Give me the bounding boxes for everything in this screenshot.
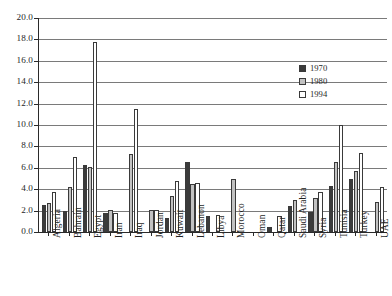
bar-egypt-1970 bbox=[83, 165, 87, 232]
bar-tunisia-1970 bbox=[329, 186, 333, 232]
x-axis-tick-label: Qatar bbox=[277, 216, 287, 238]
x-axis-tick-mark bbox=[232, 232, 233, 236]
bar-turkey-1980 bbox=[354, 171, 358, 232]
x-axis-tick-label: Tunisia bbox=[339, 209, 349, 238]
y-axis-tick-label: 0.0 bbox=[0, 226, 33, 236]
bar-algeria-1980 bbox=[47, 203, 51, 232]
x-axis-tick-label: Saudi Arabia bbox=[298, 188, 308, 239]
legend-label-1970: 1970 bbox=[310, 64, 327, 73]
bar-egypt-1980 bbox=[88, 167, 92, 232]
gridline bbox=[39, 18, 387, 19]
bar-jordan-1980 bbox=[149, 210, 153, 232]
plot-area bbox=[38, 18, 387, 233]
gridline bbox=[39, 125, 387, 126]
legend-item-1994: 1994 bbox=[299, 88, 363, 101]
bar-lebanon-1970 bbox=[185, 162, 189, 232]
bar-iran-1980 bbox=[108, 210, 112, 232]
x-axis-tick-mark bbox=[212, 232, 213, 236]
legend-label-1994: 1994 bbox=[310, 90, 327, 99]
bar-syria-1970 bbox=[308, 212, 312, 232]
x-axis-tick-label: Lebanon bbox=[196, 204, 206, 238]
bar-morocco-1980 bbox=[231, 179, 235, 233]
x-axis-tick-label: Algeria bbox=[52, 209, 62, 238]
bar-kuwait-1970 bbox=[165, 218, 169, 232]
bar-egypt-1994 bbox=[93, 42, 97, 232]
gridline bbox=[39, 104, 387, 105]
bar-iraq-1994 bbox=[134, 109, 138, 232]
bar-lebanon-1980 bbox=[190, 184, 194, 232]
y-axis-tick-label: 8.0 bbox=[0, 140, 33, 150]
bar-saudi-arabia-1970 bbox=[288, 206, 292, 232]
bar-bahrain-1970 bbox=[63, 211, 67, 232]
x-axis-tick-mark bbox=[130, 232, 131, 236]
y-axis-tick-label: 18.0 bbox=[0, 33, 33, 43]
x-axis-tick-mark bbox=[151, 232, 152, 236]
y-axis-tick-label: 16.0 bbox=[0, 55, 33, 65]
bar-iran-1970 bbox=[103, 213, 107, 232]
x-axis-tick-label: Syria bbox=[318, 217, 328, 238]
x-axis-tick-mark bbox=[355, 232, 356, 236]
y-axis-tick-label: 14.0 bbox=[0, 76, 33, 86]
x-axis-tick-label: Turkey bbox=[359, 210, 369, 238]
bar-saudi-arabia-1980 bbox=[293, 200, 297, 232]
bar-qatar-1970 bbox=[267, 227, 271, 232]
bar-syria-1980 bbox=[313, 198, 317, 232]
x-axis-tick-label: Iran bbox=[114, 222, 124, 238]
bar-tunisia-1980 bbox=[334, 162, 338, 232]
x-axis-tick-mark bbox=[253, 232, 254, 236]
x-axis-tick-label: Morocco bbox=[236, 203, 246, 238]
x-axis-tick-mark bbox=[314, 232, 315, 236]
legend-item-1980: 1980 bbox=[299, 75, 363, 88]
legend: 1970 1980 1994 bbox=[299, 62, 363, 101]
x-axis-tick-mark bbox=[171, 232, 172, 236]
legend-swatch-1994-icon bbox=[299, 91, 306, 98]
bar-chart: 0.02.04.06.08.010.012.014.016.018.020.0 … bbox=[0, 0, 392, 296]
gridline bbox=[39, 146, 387, 147]
x-axis-tick-label: Egypt bbox=[93, 215, 103, 238]
bar-libya-1970 bbox=[206, 216, 210, 232]
x-axis-tick-label: Bahrain bbox=[73, 207, 83, 238]
x-axis-tick-label: UAE bbox=[380, 218, 390, 238]
bar-algeria-1970 bbox=[42, 205, 46, 232]
x-axis-tick-label: Iraq bbox=[134, 222, 144, 238]
x-axis-tick-label: Jordan bbox=[155, 212, 165, 238]
y-axis-tick-label: 10.0 bbox=[0, 119, 33, 129]
x-axis-tick-mark bbox=[294, 232, 295, 236]
x-axis-tick-mark bbox=[69, 232, 70, 236]
x-axis-tick-mark bbox=[192, 232, 193, 236]
x-axis-tick-mark bbox=[110, 232, 111, 236]
y-axis-tick-label: 20.0 bbox=[0, 12, 33, 22]
y-axis-tick-label: 4.0 bbox=[0, 183, 33, 193]
y-axis-tick-label: 12.0 bbox=[0, 98, 33, 108]
bar-turkey-1970 bbox=[349, 179, 353, 233]
bar-iraq-1980 bbox=[129, 154, 133, 232]
bar-uae-1980 bbox=[375, 202, 379, 232]
legend-swatch-1980-icon bbox=[299, 78, 306, 85]
x-axis-tick-mark bbox=[89, 232, 90, 236]
x-axis-tick-label: Libya bbox=[216, 215, 226, 238]
legend-label-1980: 1980 bbox=[310, 77, 327, 86]
x-axis-tick-mark bbox=[48, 232, 49, 236]
bar-kuwait-1980 bbox=[170, 196, 174, 232]
gridline bbox=[39, 39, 387, 40]
x-axis-tick-mark bbox=[335, 232, 336, 236]
x-axis-tick-label: Kuwait bbox=[175, 210, 185, 239]
x-axis-tick-mark bbox=[273, 232, 274, 236]
legend-swatch-1970-icon bbox=[299, 65, 306, 72]
y-axis-tick-label: 6.0 bbox=[0, 162, 33, 172]
x-axis-tick-mark bbox=[376, 232, 377, 236]
y-axis-tick-label: 2.0 bbox=[0, 205, 33, 215]
x-axis-tick-label: Oman bbox=[257, 214, 267, 238]
legend-item-1970: 1970 bbox=[299, 62, 363, 75]
bar-bahrain-1980 bbox=[68, 187, 72, 232]
